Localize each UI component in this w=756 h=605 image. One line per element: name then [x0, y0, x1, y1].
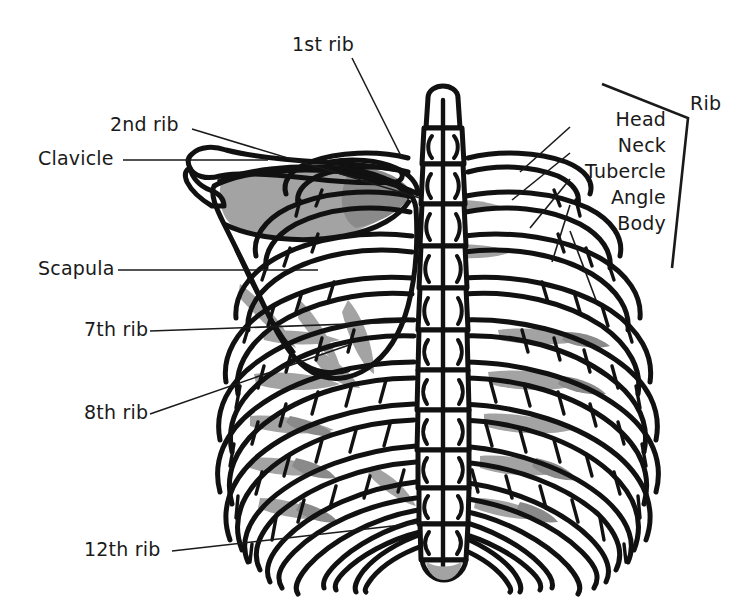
label-clavicle: Clavicle	[38, 147, 114, 169]
label-neck: Neck	[618, 134, 666, 156]
label-twelfth-rib: 12th rib	[84, 538, 160, 560]
label-head: Head	[616, 108, 666, 130]
label-rib-bracket: Rib	[690, 92, 721, 114]
label-second-rib: 2nd rib	[110, 113, 179, 135]
rib-cage-illustration: 1st rib 2nd rib Clavicle Scapula 7th rib…	[0, 0, 756, 605]
label-tubercle: Tubercle	[584, 160, 666, 182]
label-seventh-rib: 7th rib	[84, 318, 148, 340]
label-scapula: Scapula	[38, 257, 115, 279]
label-eighth-rib: 8th rib	[84, 401, 148, 423]
vertebral-column	[417, 86, 469, 580]
label-body: Body	[617, 212, 666, 234]
anatomy-diagram: 1st rib 2nd rib Clavicle Scapula 7th rib…	[0, 0, 756, 605]
diagram-background	[0, 0, 756, 605]
label-angle: Angle	[611, 186, 666, 208]
label-first-rib: 1st rib	[292, 33, 354, 55]
